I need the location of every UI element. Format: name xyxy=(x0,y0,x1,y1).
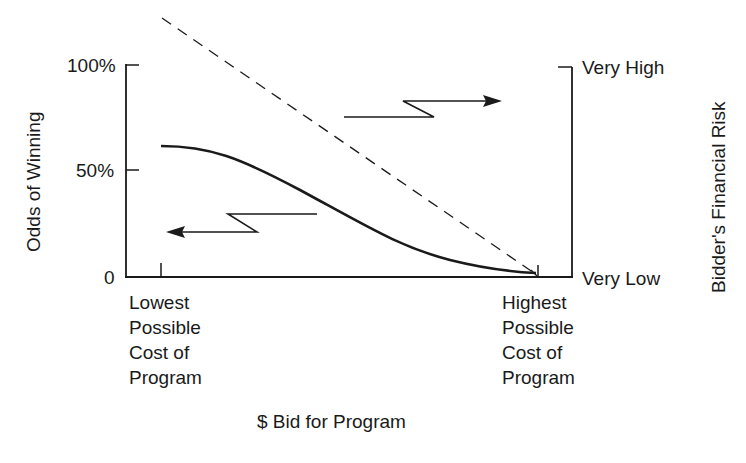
y-axis-title-right: Bidder's Financial Risk xyxy=(708,101,730,293)
x-label-lowest-line: Lowest xyxy=(129,290,202,315)
x-label-lowest-line: Cost of xyxy=(129,340,202,365)
x-label-highest-line: Highest xyxy=(502,290,575,315)
right-arrow-icon xyxy=(344,95,502,117)
x-label-highest: Highest Possible Cost of Program xyxy=(502,290,575,390)
x-label-highest-line: Program xyxy=(502,365,575,390)
right-label-very-high: Very High xyxy=(582,58,664,77)
odds-curve xyxy=(161,146,536,273)
x-label-lowest: Lowest Possible Cost of Program xyxy=(129,290,202,390)
x-label-highest-line: Possible xyxy=(502,315,575,340)
x-label-lowest-line: Possible xyxy=(129,315,202,340)
x-axis-title: $ Bid for Program xyxy=(257,412,406,431)
y-label-50: 50% xyxy=(76,161,114,180)
left-arrow-icon xyxy=(166,214,317,238)
y-axis-title-left: Odds of Winning xyxy=(23,112,45,252)
x-label-lowest-line: Program xyxy=(129,365,202,390)
right-label-very-low: Very Low xyxy=(582,269,660,288)
y-label-100: 100% xyxy=(67,56,116,75)
y-label-0: 0 xyxy=(104,268,115,287)
x-label-highest-line: Cost of xyxy=(502,340,575,365)
risk-line-dashed xyxy=(162,18,537,275)
